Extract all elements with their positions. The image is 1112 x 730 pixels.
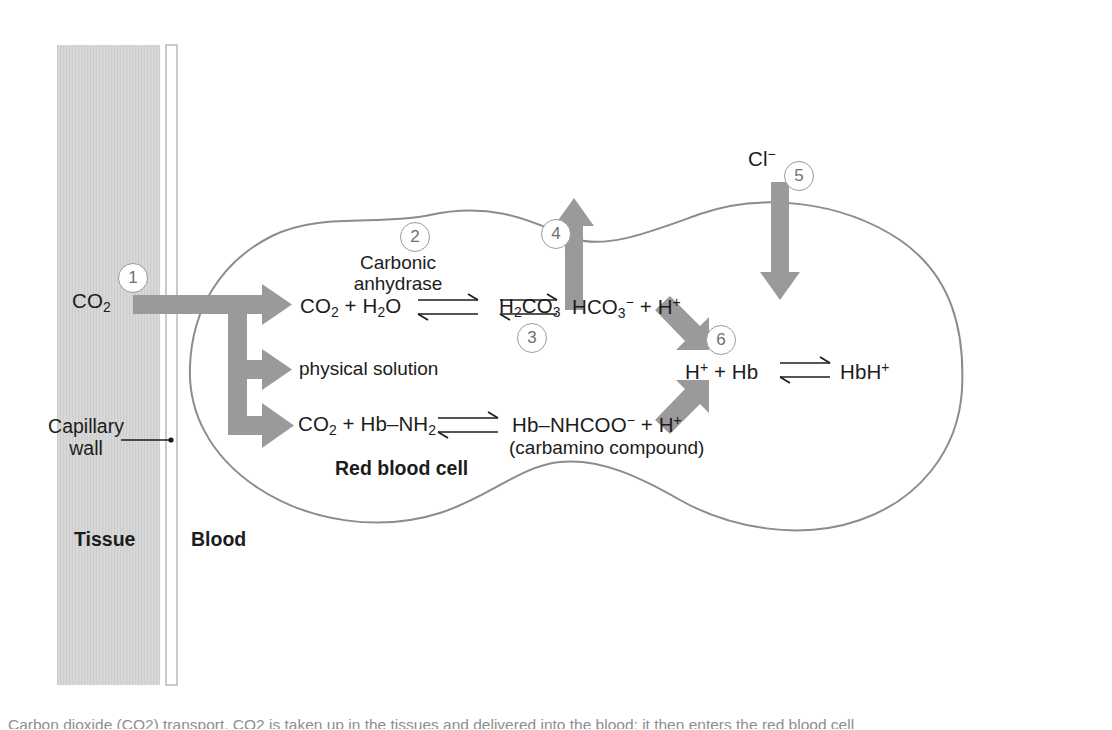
equation-hydration-right: HCO3− + H+ xyxy=(572,294,681,321)
label-chloride: Cl− xyxy=(748,146,776,171)
label-red-blood-cell: Red blood cell xyxy=(335,457,468,479)
label-carbamino-note: (carbamino compound) xyxy=(509,437,704,459)
capillary-wall-leader-dot xyxy=(168,437,173,442)
marker-5: 5 xyxy=(784,161,814,191)
label-physical-solution: physical solution xyxy=(299,358,438,380)
equation-carbamino-right: Hb–NHCOO− + H+ xyxy=(512,412,682,437)
label-tissue: Tissue xyxy=(74,528,135,550)
equation-hydration-left: CO2 + H2O xyxy=(300,294,401,320)
equation-carbamino-left: CO2 + Hb–NH2 xyxy=(298,412,436,438)
capillary-wall xyxy=(166,45,177,685)
equation-hydration-mid: H2CO3 xyxy=(499,294,561,320)
marker-1: 1 xyxy=(118,263,148,293)
marker-4: 4 xyxy=(541,219,571,249)
label-carbonic-anhydrase: Carbonic anhydrase xyxy=(318,252,478,295)
marker-3: 3 xyxy=(517,323,547,353)
co2-transport-diagram xyxy=(0,0,1112,730)
equation-buffer-right: HbH+ xyxy=(840,359,890,384)
tissue-block xyxy=(57,45,160,685)
label-blood: Blood xyxy=(191,528,246,550)
label-capillary-wall: Capillary wall xyxy=(48,415,124,460)
marker-6: 6 xyxy=(706,325,736,355)
label-co2-tissue: CO2 xyxy=(72,289,111,315)
marker-2: 2 xyxy=(400,222,430,252)
equation-buffer-left: H+ + Hb xyxy=(685,359,758,384)
figure-caption: Carbon dioxide (CO2) transport. CO2 is t… xyxy=(8,716,1108,729)
